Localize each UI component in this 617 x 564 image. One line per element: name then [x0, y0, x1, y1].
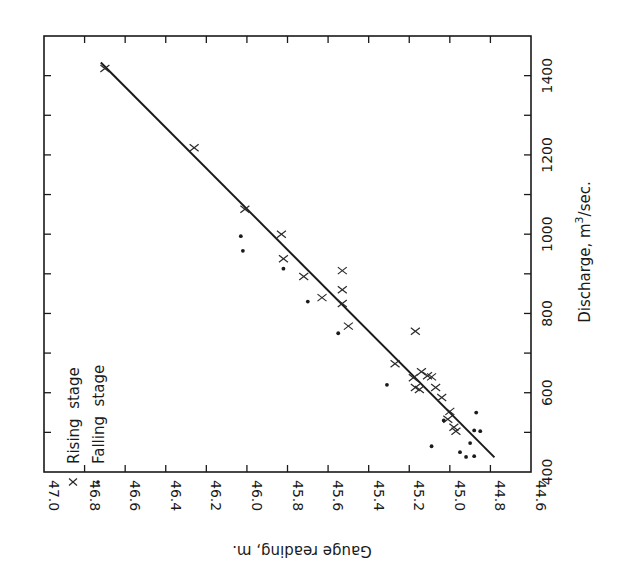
- gauge-tick-label: 45.6: [330, 480, 346, 511]
- rising-stage-point: [299, 273, 308, 280]
- rising-stage-point: [344, 323, 353, 330]
- rising-stage-point: [431, 384, 440, 391]
- gauge-tick-label: 46.6: [127, 480, 143, 511]
- discharge-tick-label: 1200: [539, 137, 555, 173]
- rising-stage-point: [338, 267, 347, 274]
- falling-stage-point: [472, 454, 476, 458]
- gauge-tick-label: 46.0: [249, 480, 265, 511]
- discharge-tick-label: 400: [539, 459, 555, 486]
- falling-stage-point: [336, 331, 340, 335]
- rating-curve-line: [101, 63, 495, 458]
- discharge-tick-label: 800: [539, 300, 555, 327]
- fit-line: [101, 63, 495, 458]
- data-points: [100, 65, 482, 459]
- rising-stage-point: [317, 294, 326, 301]
- gauge-tick-label: 45.8: [290, 480, 306, 511]
- falling-stage-point: [472, 428, 476, 432]
- discharge-axis-ticks: 400600800100012001400: [44, 58, 555, 486]
- discharge-tick-label: 600: [539, 379, 555, 406]
- legend: Rising stage Falling stage: [65, 365, 108, 486]
- gauge-tick-label: 44.8: [492, 480, 508, 511]
- gauge-tick-label: 46.4: [168, 480, 184, 511]
- falling-stage-point: [239, 234, 243, 238]
- rising-stage-point: [415, 386, 424, 393]
- rising-stage-point: [277, 231, 286, 238]
- falling-stage-point: [385, 383, 389, 387]
- gauge-tick-label: 45.0: [452, 480, 468, 511]
- falling-stage-point: [282, 267, 286, 271]
- gauge-tick-label: 45.4: [371, 480, 387, 511]
- falling-stage-point: [464, 455, 468, 459]
- gauge-tick-label: 47.0: [46, 480, 62, 511]
- rising-stage-point: [391, 360, 400, 367]
- x-marker-icon: [69, 479, 77, 486]
- gauge-tick-label: 46.8: [87, 480, 103, 511]
- falling-stage-point: [478, 429, 482, 433]
- falling-stage-point: [474, 411, 478, 415]
- rising-stage-point: [411, 328, 420, 335]
- falling-stage-point: [468, 441, 472, 445]
- falling-stage-point: [458, 450, 462, 454]
- discharge-tick-label: 1000: [539, 216, 555, 252]
- rising-stage-point: [437, 394, 446, 401]
- dot-marker-icon: [96, 480, 100, 484]
- rising-stage-point: [338, 286, 347, 293]
- plot-frame: [44, 36, 531, 472]
- falling-stage-point: [241, 249, 245, 253]
- rising-stage-point: [190, 144, 199, 151]
- gauge-axis-title: Gauge reading, m.: [232, 542, 372, 560]
- rising-stage-point: [417, 368, 426, 375]
- gauge-tick-label: 45.2: [411, 480, 427, 511]
- rating-curve-chart: 47.046.846.646.446.246.045.845.645.445.2…: [0, 0, 617, 564]
- gauge-tick-label: 46.2: [208, 480, 224, 511]
- legend-label-falling: Falling stage: [90, 365, 108, 464]
- discharge-tick-label: 1400: [539, 58, 555, 94]
- legend-item-rising: Rising stage: [65, 367, 83, 485]
- legend-item-falling: Falling stage: [90, 365, 108, 484]
- falling-stage-point: [430, 444, 434, 448]
- rising-stage-point: [279, 255, 288, 262]
- falling-stage-point: [442, 419, 446, 423]
- legend-label-rising: Rising stage: [65, 367, 83, 464]
- falling-stage-point: [306, 300, 310, 304]
- gauge-axis-ticks: 47.046.846.646.446.246.045.845.645.445.2…: [46, 36, 549, 511]
- discharge-axis-title: Discharge, m3/sec.: [573, 181, 594, 322]
